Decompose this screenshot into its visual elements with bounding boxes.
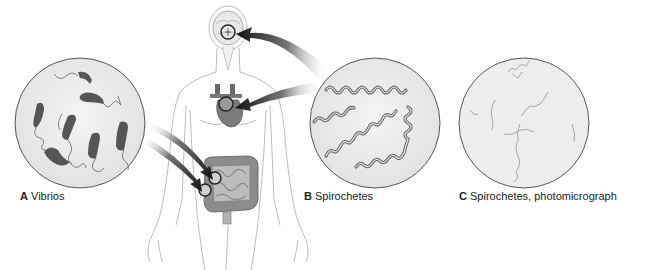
- panel-c-label: C Spirochetes, photomicrograph: [459, 190, 617, 202]
- panel-c-name: Spirochetes, photomicrograph: [470, 190, 617, 202]
- panel-c-letter: C: [459, 190, 467, 202]
- panel-b-label: B Spirochetes: [304, 190, 373, 202]
- heart-highlight-circle: [219, 97, 233, 111]
- panel-a-vibrios-circle: [15, 58, 145, 188]
- diagram-canvas: [0, 0, 649, 270]
- arrows-vibrios-to-intestines: [142, 122, 213, 192]
- panel-a-letter: A: [20, 190, 28, 202]
- panel-b-spirochetes-circle: [310, 58, 440, 188]
- panel-b-letter: B: [304, 190, 312, 202]
- heart: [210, 84, 243, 127]
- intestines: [199, 156, 258, 224]
- panel-b-name: Spirochetes: [315, 190, 373, 202]
- brain: [213, 11, 243, 70]
- panel-c-photomicrograph-circle: [459, 58, 589, 188]
- panel-a-label: A Vibrios: [20, 190, 64, 202]
- panel-a-name: Vibrios: [31, 190, 64, 202]
